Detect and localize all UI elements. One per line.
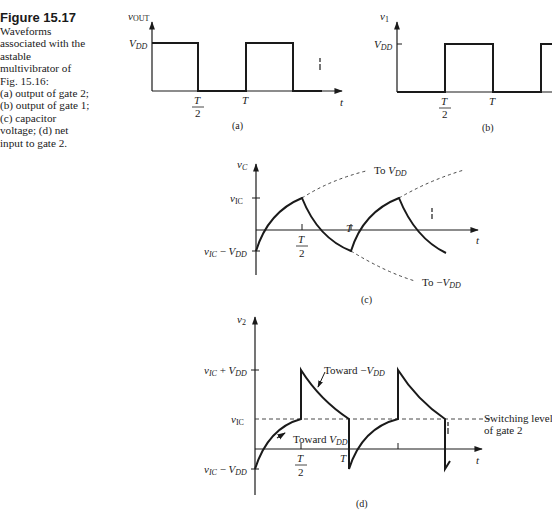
y-axis-label: v2 <box>237 313 246 327</box>
tick-half-num: T <box>194 94 201 106</box>
panel-a: vOUT VDD T 2 T t (a) <box>128 10 344 132</box>
x-axis-label: t <box>476 234 480 246</box>
tick-full: T <box>489 95 496 107</box>
level-vic: vIC <box>230 192 243 206</box>
tick-full: T <box>242 94 249 106</box>
tick-half-num: T <box>298 233 305 245</box>
level-vic-minus-vdd: vIC − VDD <box>204 245 247 259</box>
panel-label: (a) <box>232 120 243 132</box>
square-wave <box>397 44 552 92</box>
switching-level-label: Switching level <box>484 412 552 424</box>
direction-arrow <box>277 433 285 438</box>
x-axis-label: t <box>340 96 344 108</box>
panel-label: (c) <box>361 294 372 306</box>
tick-full: T <box>346 222 353 234</box>
level-vic-minus-vdd: vIC − VDD <box>204 463 247 477</box>
switching-level-label-2: of gate 2 <box>484 424 522 436</box>
panel-d: v2 vIC + VDD vIC vIC − VDD T 2 T t Towar… <box>204 313 552 510</box>
tick-half-den: 2 <box>298 466 304 478</box>
toward-neg-vdd-label: Toward −VDD <box>324 364 385 378</box>
panel-b: v1 VDD T 2 T (b) <box>374 10 552 134</box>
y-axis-label: v1 <box>380 10 389 24</box>
to-vdd-curve <box>302 171 366 198</box>
level-vic: vIC <box>231 413 244 427</box>
gate2-input-waveform <box>255 370 450 469</box>
square-wave <box>152 43 322 91</box>
tick-half-den: 2 <box>195 107 201 119</box>
tick-full: T <box>340 452 347 464</box>
level-vdd: VDD <box>129 37 148 51</box>
y-axis-label: vOUT <box>128 10 149 23</box>
to-neg-vdd-curve <box>351 251 415 281</box>
to-vdd-curve <box>399 170 464 198</box>
tick-half-num: T <box>297 452 304 464</box>
to-neg-vdd-label: To −VDD <box>422 276 461 290</box>
tick-half-den: 2 <box>299 247 305 259</box>
x-axis-label: t <box>476 454 480 466</box>
level-vic-plus-vdd: vIC + VDD <box>204 364 247 378</box>
toward-vdd-label: Toward VDD <box>293 433 348 447</box>
tick-half-den: 2 <box>442 108 448 120</box>
y-axis-label: vC <box>237 158 248 172</box>
tick-half-num: T <box>441 95 448 107</box>
panel-c: vC vIC vIC − VDD T 2 T t To VDD To −VDD … <box>204 158 480 306</box>
level-vdd: VDD <box>374 38 393 52</box>
panel-label: (d) <box>356 498 368 510</box>
waveform-figure: vOUT VDD T 2 T t (a) v1 VDD T 2 T (b) <box>0 0 552 516</box>
to-vdd-label: To VDD <box>374 164 407 178</box>
panel-label: (b) <box>482 122 494 134</box>
